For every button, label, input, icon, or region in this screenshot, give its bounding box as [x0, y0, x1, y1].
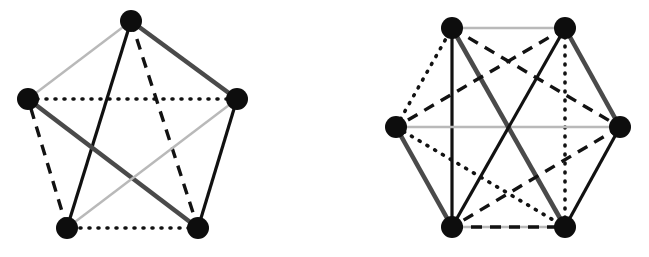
hexagon-k6-edges — [396, 28, 620, 227]
pentagon-k5-vertices — [17, 10, 248, 239]
graph-vertex-top — [120, 10, 142, 32]
graph-vertex-left — [17, 88, 39, 110]
graph-edge-edge-right-bottomleft — [452, 127, 620, 227]
graph-edge-edge-topright-right — [565, 28, 620, 127]
graph-vertex-bottom-right — [554, 216, 576, 238]
graph-edge-edge-left-topleft — [396, 28, 452, 127]
pentagon-k5-edges — [28, 21, 237, 228]
graph-edge-edge-right-bottomright — [565, 127, 620, 227]
figure-container — [0, 0, 649, 257]
graph-edge-edge-top-bottomleft — [67, 21, 131, 228]
graph-edge-edge-bottomleft-left — [396, 127, 452, 227]
graph-edge-edge-right-bottomleft — [67, 99, 237, 228]
graph-figure-svg — [0, 0, 649, 257]
graph-edge-edge-left-bottomright — [396, 127, 565, 227]
graph-edge-edge-top-bottomright — [131, 21, 198, 228]
graph-vertex-right — [609, 116, 631, 138]
graph-vertex-top-right — [554, 17, 576, 39]
graph-edge-edge-left-bottomright — [28, 99, 198, 228]
graph-vertex-bottom-left — [441, 216, 463, 238]
vertices-layer — [17, 10, 631, 239]
graph-edge-edge-bottomleft-left — [28, 99, 67, 228]
graph-vertex-bottom-right — [187, 217, 209, 239]
graph-edge-edge-top-right — [131, 21, 237, 99]
graph-edge-edge-right-bottomright — [198, 99, 237, 228]
edges-layer — [28, 21, 620, 228]
graph-vertex-left — [385, 116, 407, 138]
graph-vertex-right — [226, 88, 248, 110]
graph-edge-edge-left-top — [28, 21, 131, 99]
graph-vertex-bottom-left — [56, 217, 78, 239]
graph-vertex-top-left — [441, 17, 463, 39]
graph-edge-edge-topright-left — [396, 28, 565, 127]
